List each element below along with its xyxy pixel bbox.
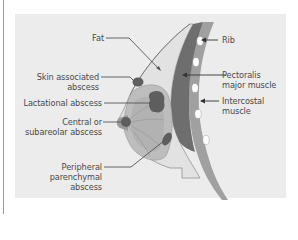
leader-skin-abscess <box>101 77 134 81</box>
label-skin-associated-abscess: Skin associated abscess <box>37 72 99 92</box>
label-pectoralis-major-muscle: Pectoralis major muscle <box>222 70 276 90</box>
arrowhead-intercostal <box>200 99 205 104</box>
central-subareolar-abscess <box>121 117 131 127</box>
rib-2 <box>193 58 199 67</box>
rib-1 <box>197 37 203 46</box>
rib-4 <box>195 110 201 119</box>
rib-5 <box>203 136 209 145</box>
label-intercostal-muscle: Intercostal muscle <box>222 96 264 116</box>
label-lactational-abscess: Lactational abscess <box>23 98 102 108</box>
skin-associated-abscess <box>133 78 144 87</box>
label-central-subareolar-abscess: Central or subareolar abscess <box>25 117 102 137</box>
label-fat: Fat <box>92 33 104 43</box>
label-rib: Rib <box>222 35 235 45</box>
rib-3 <box>192 84 198 93</box>
lactational-abscess <box>149 91 165 112</box>
label-peripheral-parenchymal-abscess: Peripheral parenchymal abscess <box>50 162 102 192</box>
